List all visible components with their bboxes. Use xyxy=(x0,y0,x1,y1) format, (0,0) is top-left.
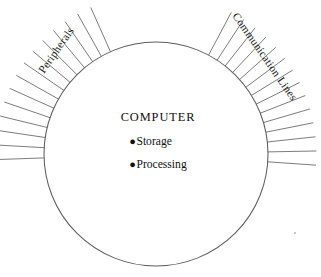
bullet-icon: ● xyxy=(129,136,136,147)
list-item: ●Storage xyxy=(129,136,186,148)
connector-line xyxy=(78,14,101,56)
connector-line xyxy=(266,123,313,132)
connector-line xyxy=(263,109,309,122)
connector-line xyxy=(1,116,48,127)
diagram-page: Peripherals Communication Lines COMPUTER… xyxy=(0,0,321,277)
computer-contents: COMPUTER ●Storage●Processing xyxy=(92,110,224,172)
bullet-icon: ● xyxy=(129,159,136,170)
connector-line xyxy=(268,151,316,152)
list-item-label: Processing xyxy=(136,158,186,171)
connector-line xyxy=(267,137,315,142)
connector-line xyxy=(17,75,59,99)
connector-line xyxy=(0,130,45,137)
connector-line xyxy=(5,102,50,118)
connector-line xyxy=(0,145,44,148)
connector-line xyxy=(91,8,111,52)
list-item: ●Processing xyxy=(129,159,186,171)
connector-line xyxy=(0,158,44,160)
list-item-label: Storage xyxy=(136,135,171,148)
computer-capability-list: ●Storage●Processing xyxy=(129,136,186,170)
scan-speck xyxy=(294,232,296,234)
page-title: COMPUTER xyxy=(92,110,224,125)
connector-line xyxy=(268,162,316,165)
connector-line xyxy=(209,13,232,55)
connector-line xyxy=(10,89,54,109)
